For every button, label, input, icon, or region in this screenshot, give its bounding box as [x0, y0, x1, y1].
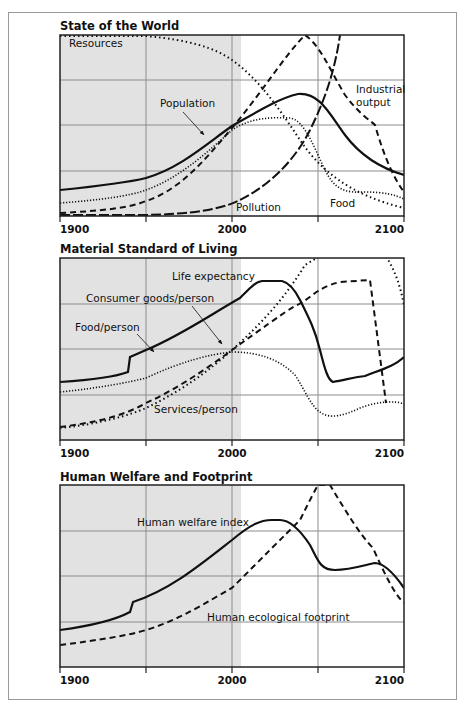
label-consumer-goods: Consumer goods/person	[86, 292, 214, 304]
label-resources: Resources	[69, 37, 123, 49]
x-ticks	[60, 440, 404, 446]
tick-2000: 2000	[217, 447, 246, 459]
label-human-welfare-index: Human welfare index	[137, 516, 249, 528]
chart-title: Human Welfare and Footprint	[60, 470, 253, 484]
chart-title: Material Standard of Living	[60, 242, 237, 256]
tick-2000: 2000	[217, 674, 246, 686]
tick-1900: 1900	[60, 447, 89, 459]
label-population: Population	[160, 97, 215, 109]
tick-2000: 2000	[217, 223, 246, 235]
label-services-per-person: Services/person	[154, 403, 238, 415]
label-life-expectancy: Life expectancy	[172, 270, 255, 282]
tick-2100: 2100	[375, 223, 404, 235]
label-food: Food	[330, 197, 355, 209]
label-human-ecological-footprint: Human ecological footprint	[207, 611, 350, 623]
chart-human-welfare-and-footprint: Human Welfare and Footprint Human welfar…	[60, 470, 404, 686]
tick-2100: 2100	[375, 447, 404, 459]
tick-1900: 1900	[60, 223, 89, 235]
label-food-per-person: Food/person	[75, 321, 140, 333]
chart-title: State of the World	[60, 19, 179, 33]
label-pollution: Pollution	[236, 201, 281, 213]
tick-2100: 2100	[375, 674, 404, 686]
x-ticks	[60, 216, 404, 222]
tick-1900: 1900	[60, 674, 89, 686]
chart-material-standard-of-living: Material Standard of Living Life expecta…	[60, 242, 404, 459]
label-industrial-2: output	[356, 96, 391, 108]
label-industrial-1: Industrial	[356, 83, 405, 95]
chart-state-of-the-world: State of the World Resources	[60, 19, 405, 235]
x-ticks	[60, 667, 404, 673]
figure-svg: State of the World Resources	[0, 0, 462, 705]
